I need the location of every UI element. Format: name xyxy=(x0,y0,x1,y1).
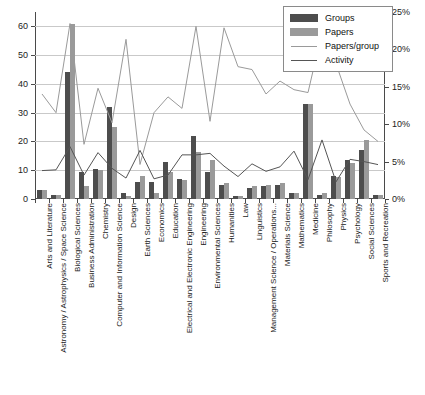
chart-container: 0102030405060 0%5%10%15%20%25% Arts and … xyxy=(0,0,425,395)
y-tick-label-right: 25% xyxy=(392,7,410,17)
x-axis-label: Materials Science xyxy=(283,203,292,266)
x-axis-label: Philosophy xyxy=(325,203,334,242)
legend-item-papers-per-group: Papers/group xyxy=(289,39,387,53)
y-tick-label-left: 0 xyxy=(23,194,28,204)
x-axis-label: Arts and Literature xyxy=(45,203,54,269)
legend-item-activity: Activity xyxy=(289,53,387,67)
x-axis-label: Environmental Sciences xyxy=(213,203,222,289)
x-axis-label: Medicine xyxy=(311,203,320,235)
x-axis-label: Astronomy / Astrophysics / Space Science xyxy=(59,203,68,353)
y-tick-label-left: 30 xyxy=(18,108,28,118)
y-tick-label-left: 10 xyxy=(18,165,28,175)
y-tick-label-left: 40 xyxy=(18,79,28,89)
legend-line-papers-per-group-icon xyxy=(289,39,319,53)
x-axis-label: Design xyxy=(129,203,138,228)
x-axis-label: Linguistics xyxy=(255,203,264,240)
x-axis-label: Humanities xyxy=(227,203,236,243)
x-axis-label: Education xyxy=(171,203,180,239)
x-axis-label: Business Administration xyxy=(87,203,96,288)
legend-label-papers: Papers xyxy=(325,27,354,37)
legend-item-groups: Groups xyxy=(289,11,387,25)
x-axis-label: Engineering xyxy=(199,203,208,246)
y-tick-label-right: 0% xyxy=(392,194,405,204)
y-tick-label-left: 60 xyxy=(18,21,28,31)
x-axis-label: Earth Sciences xyxy=(143,203,152,257)
legend-swatch-groups-icon xyxy=(289,11,319,25)
line-activity xyxy=(42,140,378,182)
x-axis-label: Law xyxy=(241,203,250,218)
x-axis-label: Biological Sciences xyxy=(73,203,82,272)
x-axis-label: Sports and Recreation xyxy=(381,203,390,283)
y-tick-label-left: 20 xyxy=(18,136,28,146)
legend-line-activity-icon xyxy=(289,53,319,67)
y-tick-label-left: 50 xyxy=(18,50,28,60)
x-axis-label: Computer and Information Science xyxy=(115,203,124,327)
y-tick-right xyxy=(385,124,389,125)
y-tick-right xyxy=(385,162,389,163)
legend-item-papers: Papers xyxy=(289,25,387,39)
x-axis-label: Electrical and Electronic Engineering xyxy=(185,203,194,333)
x-axis-label: Mathematics xyxy=(297,203,306,248)
legend-label-groups: Groups xyxy=(325,13,355,23)
y-tick-label-right: 5% xyxy=(392,157,405,167)
chart-legend: Groups Papers Papers/group Activity xyxy=(283,6,393,72)
x-axis-label: Chemistry xyxy=(101,203,110,239)
x-axis-label: Economics xyxy=(157,203,166,242)
y-tick-label-right: 20% xyxy=(392,44,410,54)
x-axis-labels: Arts and LiteratureAstronomy / Astrophys… xyxy=(35,203,385,393)
y-tick-label-right: 15% xyxy=(392,82,410,92)
legend-swatch-papers-icon xyxy=(289,25,319,39)
y-tick-label-right: 10% xyxy=(392,119,410,129)
x-axis-label: Management Science / Operations... xyxy=(269,203,278,333)
y-tick-right xyxy=(385,87,389,88)
legend-label-papers-per-group: Papers/group xyxy=(325,41,379,51)
x-axis-label: Social Sciences xyxy=(367,203,376,259)
legend-label-activity: Activity xyxy=(325,55,354,65)
x-axis-label: Psychology xyxy=(353,203,362,244)
x-axis-label: Physics xyxy=(339,203,348,231)
